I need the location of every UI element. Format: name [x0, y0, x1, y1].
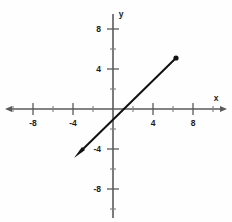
x-axis-label: x	[214, 93, 219, 103]
x-axis-left-arrowhead	[5, 106, 12, 112]
x-tick-label: 8	[191, 118, 196, 128]
line-arrowhead	[74, 147, 85, 158]
x-tick-label: -4	[69, 118, 77, 128]
x-tick-label: 4	[151, 118, 156, 128]
line-endpoint-dot	[173, 55, 178, 60]
y-tick-label: -8	[93, 184, 101, 194]
y-axis-label: y	[119, 9, 124, 19]
y-tick-label: 8	[96, 24, 101, 34]
line-segment	[80, 58, 176, 152]
x-axis-right-arrowhead	[220, 106, 227, 112]
plotted-line-series	[74, 55, 179, 158]
x-axis	[5, 106, 227, 112]
y-tick-label: -4	[93, 144, 101, 154]
coordinate-graph: -8 -4 4 8 8 4 -4 -8 y x	[0, 0, 232, 222]
graph-canvas: -8 -4 4 8 8 4 -4 -8 y x	[0, 0, 232, 222]
y-tick-label: 4	[96, 64, 101, 74]
x-tick-label: -8	[29, 118, 37, 128]
